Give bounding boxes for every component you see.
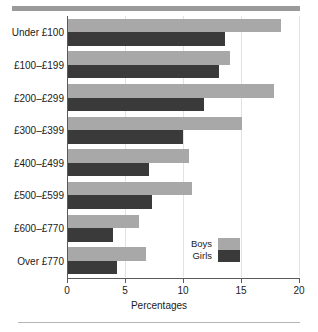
x-tick — [67, 278, 68, 283]
bar-girls — [68, 228, 113, 242]
bar-boys — [68, 182, 192, 196]
bar-girls — [68, 65, 219, 79]
bar-girls — [68, 163, 149, 177]
chart-figure: 05101520 Under £100£100–£199£200–£299£30… — [0, 0, 318, 332]
bar-boys — [68, 215, 139, 229]
x-tick — [241, 278, 242, 283]
gridline — [299, 16, 300, 277]
category-label: £500–£599 — [0, 190, 64, 201]
category-label: £300–£399 — [0, 125, 64, 136]
bar-girls — [68, 261, 117, 275]
legend-swatch-boys — [218, 238, 240, 250]
x-tick-label: 10 — [177, 285, 188, 296]
category-label: Over £770 — [0, 255, 64, 266]
x-axis-title: Percentages — [0, 300, 318, 311]
bottom-divider — [18, 322, 300, 323]
gridline — [241, 16, 242, 277]
category-label: Under £100 — [0, 27, 64, 38]
x-tick — [183, 278, 184, 283]
category-label: £600–£770 — [0, 223, 64, 234]
bar-boys — [68, 19, 281, 33]
bar-boys — [68, 247, 146, 261]
x-tick-label: 15 — [235, 285, 246, 296]
x-tick — [125, 278, 126, 283]
category-label: £200–£299 — [0, 92, 64, 103]
legend-label-boys: Boys — [191, 238, 212, 250]
bar-girls — [68, 130, 183, 144]
category-label: £400–£499 — [0, 157, 64, 168]
bar-boys — [68, 51, 230, 65]
bar-girls — [68, 98, 204, 112]
bar-girls — [68, 195, 152, 209]
legend-swatch-girls — [218, 250, 240, 262]
bar-boys — [68, 117, 242, 131]
x-tick-label: 5 — [122, 285, 128, 296]
bar-boys — [68, 149, 189, 163]
x-tick-label: 20 — [293, 285, 304, 296]
bar-boys — [68, 84, 274, 98]
bar-girls — [68, 32, 225, 46]
x-tick-label: 0 — [64, 285, 70, 296]
top-divider — [12, 6, 300, 11]
x-tick — [299, 278, 300, 283]
category-label: £100–£199 — [0, 59, 64, 70]
legend-label-girls: Girls — [192, 250, 212, 262]
